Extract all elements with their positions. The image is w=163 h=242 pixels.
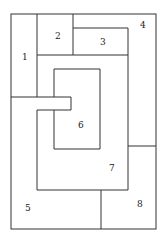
label-region-7: 7 xyxy=(109,163,115,173)
region-labels: 1 2 3 4 5 6 7 8 xyxy=(22,20,146,213)
label-region-3: 3 xyxy=(100,37,106,47)
region-6-border xyxy=(54,69,100,149)
label-region-8: 8 xyxy=(137,199,143,209)
label-region-6: 6 xyxy=(78,120,84,130)
label-region-5: 5 xyxy=(25,203,31,213)
label-region-1: 1 xyxy=(22,52,28,62)
region-diagram: 1 2 3 4 5 6 7 8 xyxy=(0,0,163,242)
label-region-4: 4 xyxy=(140,20,146,30)
label-region-2: 2 xyxy=(55,31,61,41)
